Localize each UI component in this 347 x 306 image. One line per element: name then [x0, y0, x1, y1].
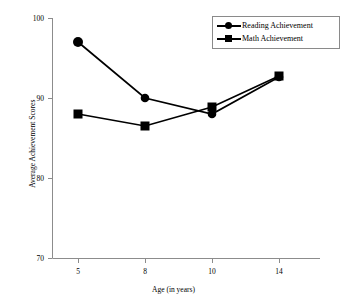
legend-square-marker-icon: [216, 33, 242, 44]
x-tick-label-10: 10: [197, 268, 227, 276]
reading-achievement-line: [78, 42, 279, 114]
math-achievement-line: [78, 76, 279, 126]
x-tick-label-8: 8: [130, 268, 160, 276]
legend-circle-marker-icon: [216, 20, 242, 31]
x-tick-label-14: 14: [264, 268, 294, 276]
reading-point-age-5: [73, 37, 83, 47]
reading-point-age-14: [275, 73, 284, 82]
reading-point-age-10: [208, 110, 217, 119]
math-point-age-8: [141, 122, 150, 131]
x-tick-label-5: 5: [63, 268, 93, 276]
legend-item-math-achievement: Math Achievement: [216, 32, 336, 45]
series-math-achievement: [74, 72, 284, 131]
y-axis-title: Average Achievement Scores: [29, 64, 37, 224]
x-axis-ticks: [79, 259, 280, 264]
x-axis-title: Age (in years): [0, 286, 347, 294]
reading-point-age-8: [141, 94, 150, 103]
legend-item-reading-achievement: Reading Achievement: [216, 19, 336, 32]
y-axis-ticks: [48, 19, 53, 259]
y-tick-label-70: 70: [20, 255, 44, 263]
legend-label-reading-achievement: Reading Achievement: [242, 22, 313, 30]
series-reading-achievement: [73, 37, 283, 118]
legend-label-math-achievement: Math Achievement: [242, 35, 303, 43]
legend: Reading Achievement Math Achievement: [212, 16, 340, 49]
achievement-line-chart: 100 90 80 70 5 8 10 14 Age (in years) Av…: [0, 0, 347, 306]
y-tick-label-100: 100: [20, 15, 44, 23]
math-point-age-5: [74, 110, 83, 119]
